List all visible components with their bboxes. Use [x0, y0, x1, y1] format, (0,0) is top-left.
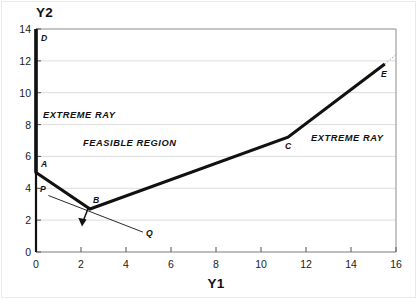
x-tick-label-8: 8: [213, 258, 219, 270]
x-tick-label-2: 2: [78, 258, 84, 270]
annotation-feasible-region: FEASIBLE REGION: [83, 138, 176, 148]
annotation-extreme-ray-left: EXTREME RAY: [43, 110, 116, 120]
point-label-D: D: [41, 33, 47, 43]
point-label-B: B: [93, 195, 99, 205]
y-tick-label-12: 12: [19, 55, 31, 67]
x-tick-label-10: 10: [255, 258, 267, 270]
x-tick-label-6: 6: [168, 258, 174, 270]
x-tick-label-12: 12: [300, 258, 312, 270]
x-tick-label-16: 16: [390, 258, 402, 270]
y-tick-label-14: 14: [19, 23, 31, 35]
y-tick-label-2: 2: [25, 214, 31, 226]
y-tick-labels: 0 2 4 6 8 10 12 14: [19, 23, 31, 258]
x-axis-title: Y1: [207, 276, 224, 291]
y-tick-label-4: 4: [25, 182, 31, 194]
point-label-P: P: [40, 184, 46, 194]
x-tick-label-14: 14: [345, 258, 357, 270]
annotation-extreme-ray-right: EXTREME RAY: [311, 133, 384, 143]
chart-figure: 0 2 4 6 8 10 12 14 0 2 4 6 8 10 12 14 16…: [0, 0, 417, 299]
y-tick-label-8: 8: [25, 119, 31, 131]
point-label-A: A: [40, 159, 47, 169]
x-tick-label-0: 0: [33, 258, 39, 270]
x-tick-labels: 0 2 4 6 8 10 12 14 16: [33, 258, 402, 270]
point-label-C: C: [285, 141, 292, 151]
x-tick-label-4: 4: [123, 258, 129, 270]
linear-programming-chart: 0 2 4 6 8 10 12 14 0 2 4 6 8 10 12 14 16…: [0, 0, 417, 299]
y-axis-title: Y2: [36, 5, 53, 20]
y-tick-label-6: 6: [25, 150, 31, 162]
y-tick-label-10: 10: [19, 87, 31, 99]
point-label-E: E: [381, 69, 387, 79]
point-label-Q: Q: [146, 228, 153, 238]
y-tick-label-0: 0: [25, 246, 31, 258]
